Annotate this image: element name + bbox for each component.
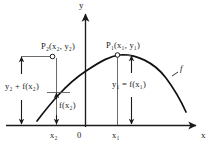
point-marker-p2 [50, 54, 55, 59]
y-axis-label: y [79, 1, 84, 10]
figure-canvas [0, 0, 216, 153]
point-label-p2: P₂(x₂, y₂) [41, 42, 75, 51]
curve-label-leader [172, 72, 178, 76]
measure-label-y2-plus-fx2: y₂ + f(x₂) [5, 82, 39, 91]
tick-label-x1: x₁ [112, 131, 120, 140]
math-figure: P₂(x₂, y₂) P₁(x₁, y₁) y₂ + f(x₂) f(x₂) y… [0, 0, 216, 153]
point-label-p1: P₁(x₁, y₁) [106, 41, 140, 50]
measure-label-y1-equals-fx1: y₁ = f(x₁) [112, 80, 146, 89]
point-marker-p1 [115, 53, 120, 58]
origin-label: 0 [77, 131, 81, 140]
x-axis-label: x [201, 131, 206, 140]
tick-label-x2: x₂ [50, 131, 58, 140]
curve-label-f: f [180, 64, 183, 73]
measure-label-fx2: f(x₂) [59, 101, 76, 110]
